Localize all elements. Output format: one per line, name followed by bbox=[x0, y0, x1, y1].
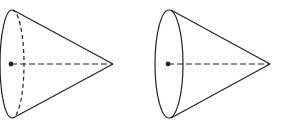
cone-right-upper-slant bbox=[171, 10, 270, 64]
cone-left-lower-slant bbox=[13, 64, 113, 118]
cone-left-base-center-dot bbox=[9, 62, 13, 66]
cone-right bbox=[155, 10, 270, 118]
cone-left-upper-slant bbox=[13, 10, 113, 64]
cone-left bbox=[0, 10, 113, 118]
cone-right-lower-slant bbox=[171, 64, 270, 118]
cones-diagram bbox=[0, 0, 282, 120]
cone-right-base-center-dot bbox=[166, 62, 170, 66]
